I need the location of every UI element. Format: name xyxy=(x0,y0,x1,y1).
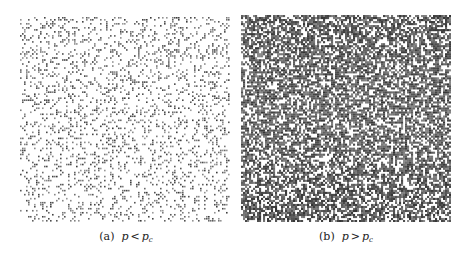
caption-a-relation: < xyxy=(131,230,140,243)
caption-a-label: (a) xyxy=(99,230,114,243)
caption-a-threshold-sub: c xyxy=(149,236,153,244)
caption-b-label: (b) xyxy=(319,230,335,243)
caption-a-variable: p xyxy=(121,230,128,243)
caption-b-threshold-sub: c xyxy=(369,236,373,244)
caption-b-variable: p xyxy=(342,230,349,243)
percolation-lattice-b xyxy=(241,15,451,222)
percolation-lattice-a xyxy=(20,17,230,222)
lattice-panel-supercritical xyxy=(241,15,451,222)
caption-a: (a)p<pc xyxy=(99,230,152,247)
caption-b-threshold: p xyxy=(362,230,369,243)
caption-b: (b)p>pc xyxy=(319,230,373,247)
lattice-panel-subcritical xyxy=(20,17,230,222)
caption-b-relation: > xyxy=(351,230,360,243)
